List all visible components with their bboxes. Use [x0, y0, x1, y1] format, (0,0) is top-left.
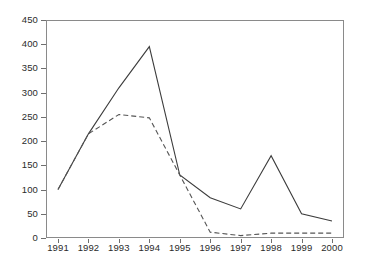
- x-tick-label: 1995: [169, 243, 191, 253]
- y-tick-label: 150: [22, 161, 38, 171]
- x-tick-label: 1999: [291, 243, 313, 253]
- y-tick-label: 300: [22, 88, 38, 98]
- y-tick-label: 350: [22, 64, 38, 74]
- x-tick-mark: [149, 239, 150, 243]
- x-tick-label: 2000: [321, 243, 343, 253]
- x-tick-mark: [210, 239, 211, 243]
- x-tick-mark: [88, 239, 89, 243]
- x-tick-mark: [180, 239, 181, 243]
- y-tick-label: 250: [22, 112, 38, 122]
- x-tick-label: 1994: [139, 243, 161, 253]
- y-axis: 050100150200250300350400450: [0, 0, 44, 274]
- line-chart: 050100150200250300350400450 199119921993…: [0, 0, 385, 274]
- solid-series-line: [58, 47, 332, 221]
- x-tick-mark: [302, 239, 303, 243]
- x-tick-mark: [241, 239, 242, 243]
- x-axis: 1991199219931994199519961997199819992000: [0, 239, 385, 269]
- y-tick-label: 50: [27, 209, 38, 219]
- x-tick-label: 1991: [47, 243, 69, 253]
- x-tick-label: 1996: [199, 243, 221, 253]
- x-tick-label: 1998: [260, 243, 282, 253]
- dashed-series-line: [58, 114, 332, 235]
- x-tick-mark: [271, 239, 272, 243]
- y-tick-label: 100: [22, 185, 38, 195]
- x-tick-label: 1997: [230, 243, 252, 253]
- x-tick-mark: [332, 239, 333, 243]
- x-tick-mark: [58, 239, 59, 243]
- y-tick-label: 450: [22, 15, 38, 25]
- series-layer: [46, 20, 344, 238]
- y-tick-label: 400: [22, 39, 38, 49]
- x-tick-label: 1993: [108, 243, 130, 253]
- x-tick-mark: [119, 239, 120, 243]
- x-tick-label: 1992: [78, 243, 100, 253]
- y-tick-label: 200: [22, 136, 38, 146]
